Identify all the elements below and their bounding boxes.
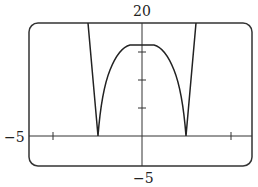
x-min-label: −5 xyxy=(4,130,25,144)
graph xyxy=(0,0,258,187)
y-max-label: 20 xyxy=(133,4,151,18)
y-min-label: −5 xyxy=(133,171,154,185)
